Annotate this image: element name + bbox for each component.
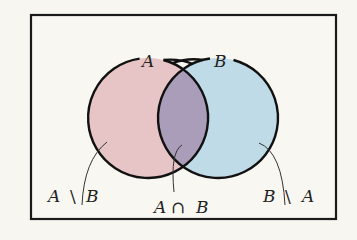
set-a-label: A bbox=[140, 51, 154, 71]
region-label-right: A bbox=[300, 186, 314, 206]
region-operator: \ bbox=[70, 186, 76, 206]
region-label-right: B bbox=[195, 197, 209, 217]
region-label-b-minus-a: B \ A bbox=[262, 186, 314, 206]
region-label-a-minus-b: A \ B bbox=[46, 186, 99, 206]
region-label-right: B bbox=[85, 186, 99, 206]
region-label-left: A bbox=[152, 197, 166, 217]
region-operator: ∩ bbox=[171, 197, 185, 217]
region-label-left: B bbox=[262, 186, 276, 206]
region-label-left: A bbox=[46, 186, 60, 206]
set-b-label: B bbox=[213, 51, 227, 71]
venn-diagram: A B A \ B A ∩ B B \ A bbox=[0, 0, 357, 240]
region-label-a-intersect-b: A ∩ B bbox=[152, 197, 209, 217]
region-operator: \ bbox=[285, 186, 291, 206]
